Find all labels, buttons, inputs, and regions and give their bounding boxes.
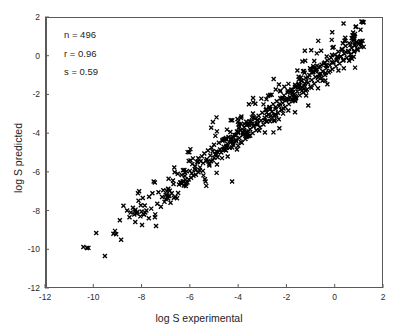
x-tick-label: -2	[283, 293, 291, 302]
y-tick-label: -12	[18, 284, 40, 293]
y-axis-title: log S predicted	[12, 88, 24, 228]
x-tick-label: 0	[332, 293, 337, 302]
y-tick-label: -10	[18, 245, 40, 254]
scatter-plot-figure: -12-10-8-6-4-202 -12-10-8-6-4-202 log S …	[0, 0, 398, 334]
x-axis-title: log S experimental	[0, 312, 398, 324]
y-tick-label: 2	[18, 13, 40, 22]
stat-r: r = 0.96	[64, 45, 98, 64]
x-tick-label: -10	[87, 293, 99, 302]
y-tick-label: 0	[18, 51, 40, 60]
x-tick-label: -4	[234, 293, 242, 302]
stat-s: s = 0.59	[64, 63, 98, 82]
statistics-annotation: n = 496 r = 0.96 s = 0.59	[64, 26, 98, 82]
x-tick-label: -12	[39, 293, 51, 302]
x-tick-label: -6	[186, 293, 194, 302]
x-tick-label: 2	[381, 293, 386, 302]
x-tick-label: -8	[138, 293, 146, 302]
stat-n: n = 496	[64, 26, 98, 45]
